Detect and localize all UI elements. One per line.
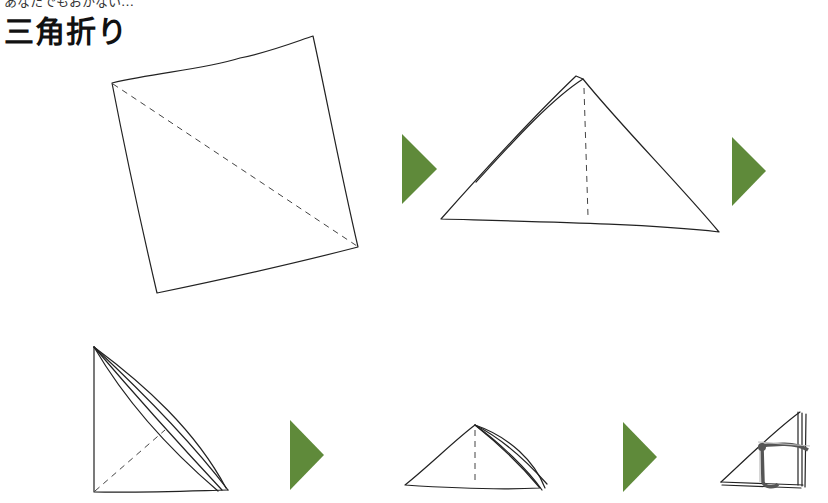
step-2-triangle-cloth-center-fold-icon [441, 76, 719, 232]
step-1-square-cloth-diagonal-fold-icon [112, 36, 358, 293]
step-4-folded-small-triangle-icon [405, 425, 547, 490]
step-arrow-2 [732, 137, 766, 206]
step-3-folded-right-triangle-icon [94, 347, 228, 492]
step-arrow-3 [290, 420, 324, 490]
step-5-tied-triangle-bundle-icon [721, 412, 810, 488]
step-arrow-1 [402, 134, 437, 204]
folding-diagram [0, 0, 828, 503]
step-arrow-4 [623, 422, 657, 492]
